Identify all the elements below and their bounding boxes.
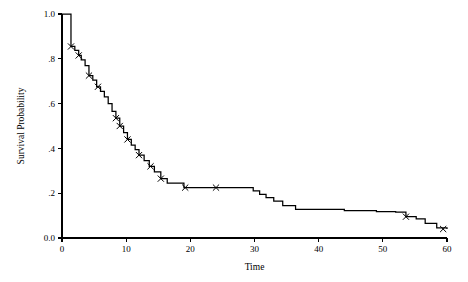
y-tick-label: .2 [48, 188, 55, 198]
x-tick-label: 30 [250, 244, 260, 254]
x-tick-label: 0 [60, 244, 65, 254]
y-tick-label: .8 [48, 54, 55, 64]
censor-mark [440, 226, 446, 232]
x-tick-label: 40 [314, 244, 324, 254]
y-tick-label: .4 [48, 144, 55, 154]
x-axis-title: Time [245, 262, 265, 272]
censoring-marks-group [68, 43, 446, 232]
x-tick-label: 10 [122, 244, 132, 254]
x-axis-ticks: 0102030405060 [60, 238, 452, 254]
y-tick-label: .6 [48, 99, 55, 109]
y-axis-title: Survival Probability [16, 87, 26, 164]
x-axis-group: 0102030405060 [60, 238, 452, 254]
survival-step-line [62, 14, 447, 229]
survival-chart: 0.0.2.4.6.81.0 0102030405060 Time Surviv… [0, 0, 468, 282]
km-plot-svg: 0.0.2.4.6.81.0 0102030405060 Time Surviv… [0, 0, 468, 282]
y-axis-group: 0.0.2.4.6.81.0 [44, 9, 62, 243]
y-axis-ticks: 0.0.2.4.6.81.0 [44, 9, 62, 243]
plot-data-group [62, 14, 447, 232]
x-tick-label: 60 [443, 244, 453, 254]
y-tick-label: 1.0 [44, 9, 56, 19]
x-tick-label: 50 [378, 244, 388, 254]
x-tick-label: 20 [186, 244, 196, 254]
y-tick-label: 0.0 [44, 233, 56, 243]
